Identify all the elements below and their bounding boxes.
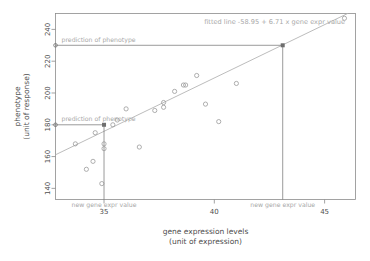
data-point: [137, 145, 141, 149]
data-point: [91, 159, 95, 163]
x-axis-subtitle-text: (unit of expression): [169, 237, 242, 246]
y-tick-label: 240: [44, 23, 52, 36]
new-value-annotation: new gene expr value: [250, 201, 315, 209]
data-point: [111, 123, 115, 127]
data-point: [93, 131, 97, 135]
new-value-annotation: new gene expr value: [72, 201, 137, 209]
x-tick-label: 45: [320, 208, 329, 216]
data-point: [124, 107, 128, 111]
x-tick-label: 40: [210, 208, 219, 216]
data-point: [195, 73, 199, 77]
data-point: [217, 120, 221, 124]
prediction-marker: [281, 43, 285, 47]
data-point: [203, 102, 207, 106]
data-point: [100, 182, 104, 186]
y-tick-label: 220: [44, 55, 52, 68]
data-point: [153, 108, 157, 112]
scatter-plot-canvas: 140160180200220240354045gene expression …: [0, 0, 370, 261]
y-tick-label: 200: [44, 86, 52, 99]
data-point: [173, 89, 177, 93]
fitted-line-label-text: fitted line -58.95 + 6.71 x gene expr va…: [204, 18, 345, 26]
x-tick-label: 35: [100, 208, 109, 216]
data-point: [234, 81, 238, 85]
y-axis-subtitle-text: (unit of response): [22, 73, 31, 140]
chart-figure: 140160180200220240354045gene expression …: [0, 0, 370, 261]
prediction-marker: [102, 123, 106, 127]
y-tick-label: 160: [44, 150, 52, 163]
y-axis-title-text: phenotype: [13, 86, 22, 127]
prediction-annotation: prediction of phenotype: [62, 115, 136, 123]
x-axis-title-text: gene expression levels: [163, 227, 249, 236]
y-tick-label: 140: [44, 182, 52, 195]
prediction-annotation: prediction of phenotype: [62, 36, 136, 44]
fitted-line: [56, 14, 348, 155]
data-point: [161, 105, 165, 109]
y-tick-label: 180: [44, 118, 52, 131]
data-point: [84, 167, 88, 171]
